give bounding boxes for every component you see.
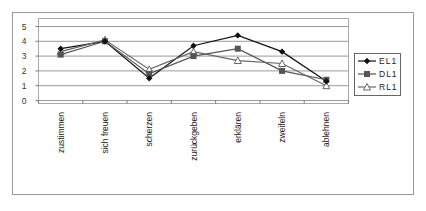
- plot-area: [39, 19, 349, 104]
- x-category-label: scherzen: [144, 112, 154, 147]
- legend-label: EL1: [379, 56, 397, 66]
- y-tick-label: 1: [22, 81, 27, 91]
- x-category-label: zweifeln: [277, 112, 287, 143]
- y-tick-label: 5: [22, 22, 27, 32]
- square-marker-icon: [58, 52, 64, 58]
- square-marker-icon: [364, 71, 370, 77]
- x-category-label: erklären: [233, 112, 243, 143]
- square-marker-icon: [235, 46, 241, 52]
- y-tick-label: 0: [22, 96, 27, 106]
- line-chart: 012345 zustimmensich freuenscherzenzurüc…: [0, 0, 426, 211]
- legend: EL1DL1RL1: [355, 54, 401, 96]
- y-tick-label: 4: [22, 36, 27, 46]
- square-marker-icon: [191, 53, 197, 59]
- x-category-label: zustimmen: [56, 112, 66, 153]
- x-category-label: ablehnen: [321, 112, 331, 147]
- x-category-label: zurückgeben: [189, 112, 199, 161]
- legend-label: RL1: [379, 82, 398, 92]
- legend-label: DL1: [379, 69, 398, 79]
- y-tick-label: 2: [22, 66, 27, 76]
- square-marker-icon: [279, 68, 285, 74]
- y-tick-label: 3: [22, 51, 27, 61]
- x-category-label: sich freuen: [100, 112, 110, 154]
